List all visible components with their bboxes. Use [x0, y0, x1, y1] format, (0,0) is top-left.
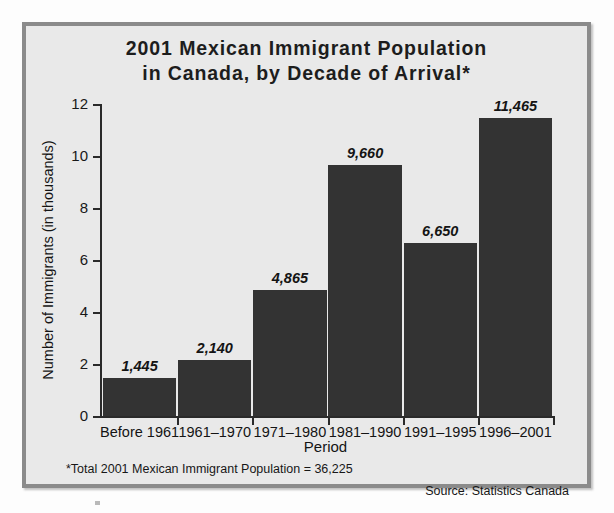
- y-axis-tick: [93, 364, 102, 366]
- bar-value-label: 2,140: [197, 340, 233, 356]
- bar-value-label: 4,865: [272, 270, 308, 286]
- x-axis-tick: [553, 416, 555, 425]
- bar[interactable]: 4,865: [253, 290, 326, 416]
- chart-figure-frame: 2001 Mexican Immigrant Population in Can…: [22, 22, 591, 488]
- y-axis-tick: [93, 416, 102, 418]
- y-axis-tick: [93, 260, 102, 262]
- chart-footnote: *Total 2001 Mexican Immigrant Population…: [66, 462, 353, 476]
- y-axis-tick-label: 0: [80, 407, 88, 424]
- bar[interactable]: 11,465: [479, 118, 552, 416]
- bar-value-label: 6,650: [422, 223, 458, 239]
- bar-value-label: 11,465: [494, 98, 537, 114]
- bar-value-label: 9,660: [347, 145, 383, 161]
- y-axis-tick-label: 10: [71, 147, 88, 164]
- chart-title: 2001 Mexican Immigrant Population in Can…: [26, 36, 587, 86]
- scan-artifact-speck: [95, 501, 100, 505]
- scanned-page: 2001 Mexican Immigrant Population in Can…: [0, 0, 614, 513]
- y-axis-title: Number of Immigrants (in thousands): [40, 104, 58, 416]
- bar-value-label: 1,445: [121, 358, 157, 374]
- chart-title-line-2: in Canada, by Decade of Arrival*: [26, 61, 587, 86]
- y-axis-tick-label: 2: [80, 355, 88, 372]
- plot-area: 0246810121,445Before 19612,1401961–19704…: [100, 104, 553, 418]
- y-axis-tick: [93, 156, 102, 158]
- y-axis-tick-label: 8: [80, 199, 88, 216]
- chart-title-line-1: 2001 Mexican Immigrant Population: [26, 36, 587, 61]
- x-axis-title: Period: [100, 438, 551, 455]
- y-axis-tick: [93, 208, 102, 210]
- chart-source-note: Source: Statistics Canada: [425, 484, 569, 498]
- bar[interactable]: 2,140: [178, 360, 251, 416]
- bar[interactable]: 6,650: [404, 243, 477, 416]
- y-axis-tick-label: 4: [80, 303, 88, 320]
- y-axis-tick-label: 12: [71, 95, 88, 112]
- y-axis-tick: [93, 312, 102, 314]
- bar[interactable]: 1,445: [103, 378, 176, 416]
- bar[interactable]: 9,660: [328, 165, 401, 416]
- y-axis-tick: [93, 104, 102, 106]
- y-axis-tick-label: 6: [80, 251, 88, 268]
